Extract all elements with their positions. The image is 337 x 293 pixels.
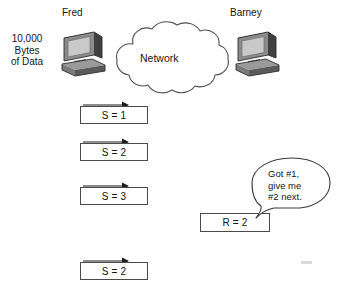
data-volume-note: 10,000 Bytes of Data <box>2 33 52 68</box>
right-arrow-icon-segment-2 <box>82 132 130 141</box>
right-arrow-icon-segment-4 <box>82 251 130 260</box>
segment-box-1: S = 1 <box>80 106 148 124</box>
data-note-line-3: of Data <box>2 56 52 68</box>
scan-artifact <box>301 261 312 264</box>
data-note-line-1: 10,000 <box>2 33 52 45</box>
segment-box-2: S = 2 <box>80 143 148 161</box>
diagram-canvas: Fred Barney 10,000 Bytes of Data <box>0 0 337 293</box>
speech-bubble-line-2: give me <box>268 180 324 192</box>
network-cloud-label: Network <box>140 52 179 64</box>
right-arrow-icon-segment-1 <box>82 95 130 104</box>
host-label-barney: Barney <box>230 7 262 18</box>
speech-bubble-line-3: #2 next. <box>268 191 324 203</box>
segment-box-3: S = 3 <box>80 187 148 205</box>
segment-box-4: S = 2 <box>80 262 148 280</box>
host-label-fred: Fred <box>62 7 83 18</box>
data-note-line-2: Bytes <box>2 45 52 57</box>
speech-bubble-text: Got #1, give me #2 next. <box>268 168 324 203</box>
speech-bubble-line-1: Got #1, <box>268 168 324 180</box>
right-arrow-icon-segment-3 <box>82 176 130 185</box>
